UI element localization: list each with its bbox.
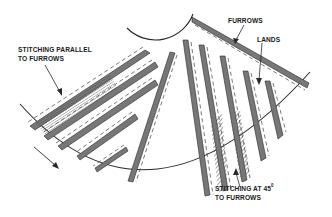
rotation-direction-arrow (34, 147, 59, 169)
label-stitching-parallel-line1: STITCHING PARALLEL (18, 46, 92, 55)
center-hub-arc (127, 14, 193, 40)
degree-symbol: 0 (271, 183, 274, 188)
label-lands: LANDS (257, 36, 280, 45)
label-stitching-45-line1: STITCHING AT 45 (215, 185, 271, 192)
label-stitching-parallel-line2: TO FURROWS (18, 55, 92, 64)
stitching-parallel-region (36, 75, 118, 136)
label-furrows: FURROWS (228, 17, 263, 26)
label-stitching-45: STITCHING AT 450 TO FURROWS (215, 185, 274, 202)
disc-sector-diagram (0, 0, 332, 217)
label-stitching-parallel: STITCHING PARALLEL TO FURROWS (18, 46, 92, 63)
label-stitching-45-line2: TO FURROWS (215, 194, 274, 203)
label-furrows-text: FURROWS (228, 17, 263, 24)
label-lands-text: LANDS (257, 36, 280, 43)
